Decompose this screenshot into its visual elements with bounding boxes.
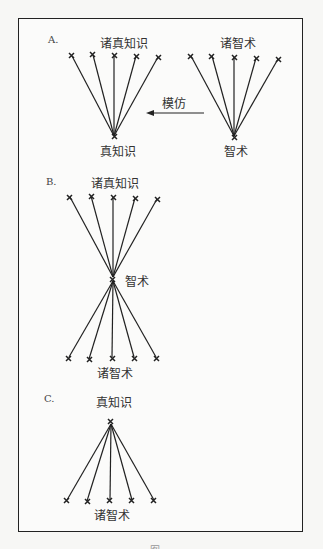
section-a-right-fan bbox=[191, 56, 278, 136]
many-true-knowledge-label: 诸真知识 bbox=[100, 34, 148, 51]
b-sophistry-label: 智术 bbox=[125, 272, 149, 289]
b-many-true-knowledge-label: 诸真知识 bbox=[91, 174, 139, 191]
many-sophistries-label: 诸智术 bbox=[220, 34, 256, 51]
diagram-lines bbox=[0, 0, 323, 549]
c-many-sophistries-label: 诸智术 bbox=[94, 506, 130, 523]
c-true-knowledge-label: 真知识 bbox=[96, 393, 132, 410]
section-b-lower-fan bbox=[69, 281, 156, 359]
section-a-label: A. bbox=[48, 34, 58, 45]
true-knowledge-label: 真知识 bbox=[100, 142, 136, 159]
section-c-fan bbox=[67, 424, 154, 501]
imitation-label: 模仿 bbox=[162, 94, 186, 111]
figure-caption: 图 bbox=[150, 542, 160, 549]
node-markers bbox=[64, 52, 281, 504]
section-c-label: C. bbox=[44, 393, 54, 404]
section-b-label: B. bbox=[46, 176, 57, 187]
section-b-upper-fan bbox=[70, 196, 157, 277]
section-a-left-fan bbox=[72, 55, 158, 136]
b-many-sophistries-label: 诸智术 bbox=[97, 364, 133, 381]
sophistry-label: 智术 bbox=[224, 142, 248, 159]
